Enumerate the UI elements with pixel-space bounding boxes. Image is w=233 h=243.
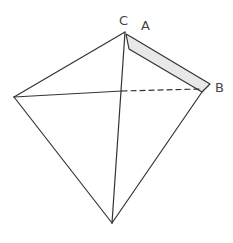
edge-top-bottom — [112, 32, 125, 223]
edge-left-bottom — [14, 97, 112, 223]
edge-right-bottom — [112, 92, 202, 223]
label-C: C — [119, 13, 128, 28]
bar-AB — [126, 34, 210, 92]
edge-hidden-to-B — [122, 89, 200, 91]
tetrahedron-diagram: C A B — [0, 0, 233, 243]
label-B: B — [215, 80, 224, 95]
edge-top-left — [14, 32, 125, 97]
edge-left-middle — [14, 91, 122, 97]
label-A: A — [141, 18, 150, 33]
